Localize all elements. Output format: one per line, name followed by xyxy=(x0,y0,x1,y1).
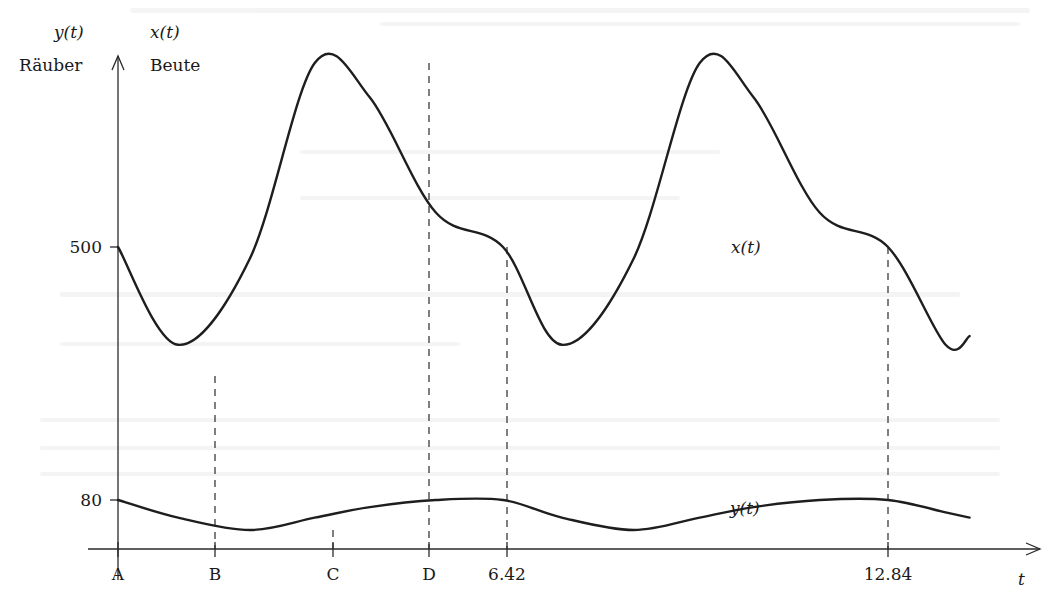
chart-canvas: y(t) Räuber x(t) Beute 500 80 A B C D 6.… xyxy=(0,0,1061,601)
lotka-volterra-figure: y(t) Räuber x(t) Beute 500 80 A B C D 6.… xyxy=(0,0,1061,601)
prey-curve-label: x(t) xyxy=(731,237,761,257)
predator-name-label: Räuber xyxy=(19,55,83,75)
x-axis-label-t: t xyxy=(1018,569,1025,589)
x-tick-label-C: C xyxy=(326,564,339,584)
prey-symbol-label: x(t) xyxy=(150,22,180,42)
predator-curve-y xyxy=(118,498,970,530)
x-tick-label-B: B xyxy=(209,564,222,584)
reference-lines xyxy=(215,63,888,549)
predator-symbol-label: y(t) xyxy=(53,22,84,42)
prey-name-label: Beute xyxy=(150,55,200,75)
x-tick-label-two-periods: 12.84 xyxy=(864,564,913,584)
x-tick-label-A: A xyxy=(111,564,125,584)
predator-curve-label: y(t) xyxy=(729,498,760,518)
x-tick-label-D: D xyxy=(422,564,436,584)
prey-curve-x xyxy=(118,54,970,350)
y-tick-label-80: 80 xyxy=(80,490,102,510)
x-tick-label-period: 6.42 xyxy=(488,564,526,584)
y-tick-label-500: 500 xyxy=(70,237,102,257)
